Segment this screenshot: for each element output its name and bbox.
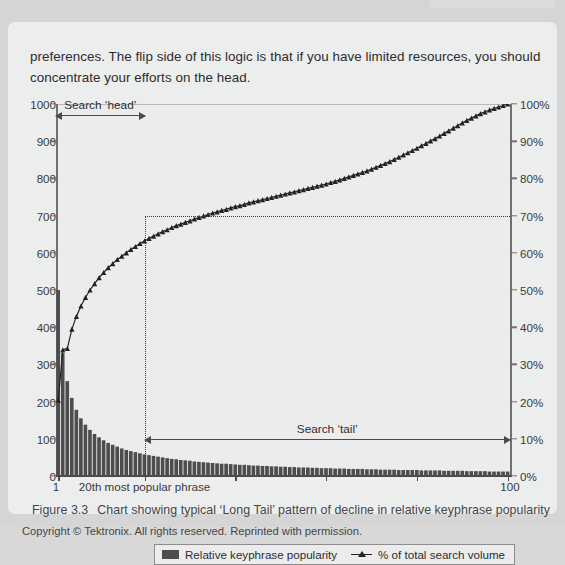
line-marker-triangle (478, 111, 483, 116)
bar (206, 463, 210, 476)
bar (193, 461, 197, 476)
figure-number: Figure 3.3 (32, 503, 88, 517)
bar (111, 445, 115, 476)
y-axis-right-tick-label: 30% (520, 358, 560, 371)
bar (456, 471, 460, 476)
bar (297, 467, 301, 476)
chart-legend: Relative keyphrase popularity % of total… (154, 544, 515, 565)
bar (374, 469, 378, 476)
bar (379, 470, 383, 476)
bar (451, 471, 455, 476)
line-marker-triangle (432, 136, 437, 141)
bar (224, 464, 228, 476)
bar (229, 464, 233, 476)
bar (147, 455, 151, 476)
body-paragraph: preferences. The flip side of this logic… (30, 47, 545, 88)
y-axis-right: 0%10%20%30%40%50%60%70%80%90%100% (520, 100, 565, 480)
bar (342, 469, 346, 476)
bar (311, 468, 315, 476)
bar (233, 464, 237, 476)
bar (283, 467, 287, 476)
line-marker-triangle (469, 116, 474, 121)
arrowhead-left-icon (144, 436, 151, 444)
line-marker-triangle (156, 231, 161, 236)
bar (356, 469, 360, 476)
line-marker-triangle (69, 326, 74, 331)
bar (156, 457, 160, 476)
bar (401, 470, 405, 476)
line-marker-triangle (410, 148, 415, 153)
bar (474, 471, 478, 476)
bar (460, 471, 464, 476)
bar (88, 430, 92, 476)
annotation-arrow-search-head (56, 115, 145, 116)
bar (488, 472, 492, 476)
bar (161, 457, 165, 476)
bar (97, 437, 101, 476)
arrowhead-right-icon (504, 436, 511, 444)
line-marker-triangle (451, 126, 456, 131)
bar (261, 466, 265, 476)
series-graphics (56, 104, 512, 484)
line-marker-triangle (392, 157, 397, 162)
line-marker-triangle (473, 113, 478, 118)
y-axis-right-tick-label: 100% (520, 98, 560, 111)
content-panel: preferences. The flip side of this logic… (8, 22, 557, 514)
legend-label-line: % of total search volume (378, 548, 505, 561)
bar (238, 465, 242, 476)
annotation-label-search-tail: Search ‘tail’ (297, 422, 358, 436)
line-marker-triangle (428, 138, 433, 143)
bar (134, 452, 138, 476)
y-axis-right-tick-label: 50% (520, 284, 560, 297)
bar (420, 470, 424, 476)
bar (93, 434, 97, 476)
bar (256, 466, 260, 476)
line-marker-triangle (464, 118, 469, 123)
line-marker-triangle (369, 167, 374, 172)
bar (383, 470, 387, 476)
y-axis-right-tick-label: 20% (520, 395, 560, 408)
bar (274, 466, 278, 476)
bar (288, 467, 292, 476)
bar (252, 466, 256, 476)
bar (215, 463, 219, 476)
bar (302, 467, 306, 476)
line-marker-triangle (169, 225, 174, 230)
bar (179, 460, 183, 476)
line-marker-triangle (401, 152, 406, 157)
bar (183, 460, 187, 476)
bar (220, 464, 224, 476)
arrowhead-left-icon (55, 112, 62, 120)
legend-item-bars: Relative keyphrase popularity (162, 548, 337, 561)
line-marker-triangle (373, 165, 378, 170)
line-marker-triangle (460, 120, 465, 125)
line-marker-triangle (165, 227, 170, 232)
line-marker-triangle (378, 163, 383, 168)
bar (129, 451, 133, 476)
x-axis-label-start: 1 (53, 480, 59, 493)
bar (438, 470, 442, 476)
bar (410, 470, 414, 476)
bar (242, 465, 246, 476)
bar (270, 466, 274, 476)
bar (333, 469, 337, 476)
line-marker-triangle (74, 314, 79, 319)
x-axis-tick (326, 476, 327, 481)
line-marker-triangle (482, 109, 487, 114)
bar (320, 468, 324, 476)
arrowhead-right-icon (139, 112, 146, 120)
y-axis-right-tick-label: 60% (520, 246, 560, 259)
bar (124, 450, 128, 476)
line-marker-triangle (446, 128, 451, 133)
x-axis-tick (417, 476, 418, 481)
bar (397, 470, 401, 476)
bar (329, 468, 333, 476)
bar (392, 470, 396, 476)
line-marker-triangle (83, 295, 88, 300)
bar (388, 470, 392, 476)
bar (492, 472, 496, 476)
bar (152, 456, 156, 476)
x-axis-label-end: 100 (500, 480, 519, 493)
bar (165, 458, 169, 476)
